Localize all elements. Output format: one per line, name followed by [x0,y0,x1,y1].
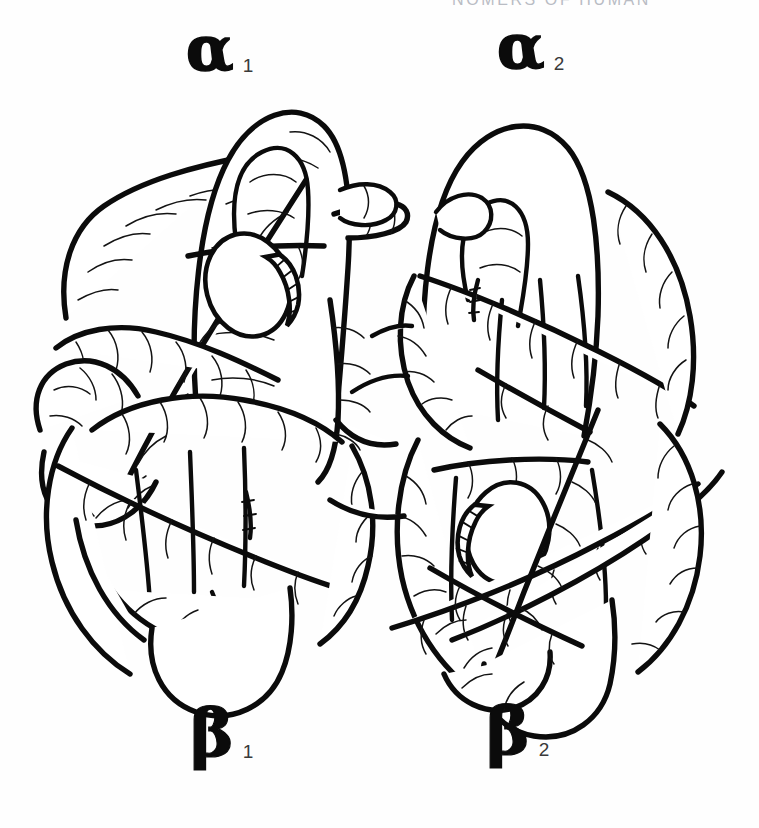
hemoglobin-structure-figure: .tube { fill:#ffffff; stroke:#0b0b0b; st… [0,0,759,828]
alpha-glyph-2: α [497,16,545,78]
subunit-label-beta-2: β2 [486,698,549,764]
beta-glyph-1: β [190,700,234,766]
alpha-subscript-1: 1 [243,55,254,77]
subunit-label-alpha-2: α2 [497,16,564,78]
chain-termini [340,184,396,225]
beta-glyph-2: β [486,698,530,764]
alpha-glyph-1: α [186,18,234,80]
beta-subscript-1: 1 [243,741,254,763]
structure-drawing: .tube { fill:#ffffff; stroke:#0b0b0b; st… [0,0,759,828]
beta-subscript-2: 2 [539,739,550,761]
alpha-subscript-2: 2 [554,53,565,75]
subunit-label-alpha-1: α1 [186,18,253,80]
subunit-label-beta-1: β1 [190,700,253,766]
